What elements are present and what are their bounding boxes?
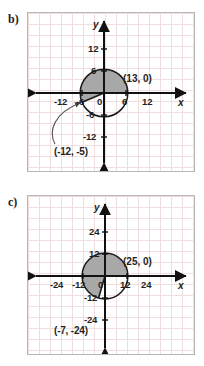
leader-line [52, 103, 80, 144]
x-axis-label: x [178, 280, 184, 291]
panel-c-label: c) [8, 195, 17, 210]
x-tick-12: 12 [142, 96, 153, 107]
x-tick-zero: 0 [98, 279, 103, 290]
x-tick-12: 12 [120, 279, 131, 290]
y-axis-label: y [94, 202, 100, 213]
y-tick-12: 12 [88, 43, 99, 54]
y-axis-label: y [93, 19, 99, 30]
y-tick-neg12: -12 [83, 131, 96, 142]
x-tick-neg6: -6 [76, 96, 84, 107]
point-label-neg12-neg5: (-12, -5) [54, 146, 88, 157]
x-tick-24: 24 [141, 279, 152, 290]
point-label-13-0: (13, 0) [123, 73, 152, 84]
x-axis-label: x [178, 97, 184, 108]
x-tick-neg24: -24 [50, 279, 63, 290]
y-tick-neg6: -6 [86, 109, 94, 120]
point-label-25-0: (25, 0) [123, 256, 152, 267]
panel-c-plot: -24 -12 0 12 24 24 12 -12 -24 x y (25, 0… [27, 195, 195, 355]
panel-b-graphic [28, 13, 194, 171]
panel-c-graphic [28, 196, 194, 354]
y-tick-6: 6 [91, 65, 96, 76]
panel-c: c) [0, 183, 204, 366]
y-tick-neg12: -12 [84, 292, 97, 303]
figure-page: b) [0, 0, 204, 366]
x-tick-6: 6 [122, 96, 127, 107]
panel-b-label: b) [8, 12, 19, 27]
y-tick-24: 24 [89, 226, 100, 237]
y-tick-neg24: -24 [84, 314, 97, 325]
panel-b: b) [0, 0, 204, 183]
x-tick-neg12: -12 [54, 96, 67, 107]
x-tick-zero: 0 [97, 96, 102, 107]
point-label-neg7-neg24: (-7, -24) [54, 325, 88, 336]
panel-b-plot: -12 -6 0 6 12 12 6 -6 -12 x y (13, 0) (-… [27, 12, 195, 172]
y-tick-12: 12 [89, 248, 100, 259]
x-tick-neg12: -12 [72, 279, 85, 290]
